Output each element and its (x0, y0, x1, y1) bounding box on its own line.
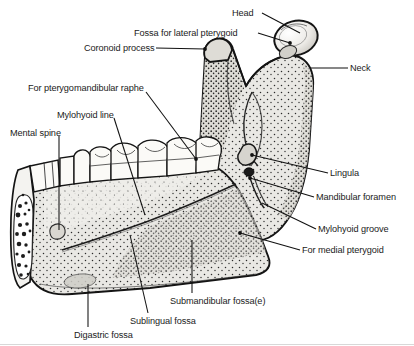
label-for-medial-pterygoid: For medial pterygoid (302, 245, 384, 255)
mandibular-foramen (244, 168, 254, 176)
label-neck: Neck (350, 63, 371, 73)
label-pterygomandibular-raphe: For pterygomandibular raphe (28, 83, 144, 93)
label-digastric-fossa: Digastric fossa (74, 330, 133, 340)
label-lingula: Lingula (330, 168, 359, 178)
label-mental-spine: Mental spine (10, 128, 61, 138)
figure-canvas: HeadFossa for lateral pterygoidCoronoid … (0, 0, 414, 346)
label-head: Head (232, 8, 254, 18)
label-mandibular-foramen: Mandibular foramen (316, 192, 396, 202)
leader-coronoid-process (156, 48, 205, 49)
label-coronoid-process: Coronoid process (84, 43, 154, 53)
label-fossa-lateral-pterygoid: Fossa for lateral pterygoid (134, 28, 238, 38)
label-sublingual-fossa: Sublingual fossa (130, 316, 196, 326)
label-submandibular-fossa: Submandibular fossa(e) (170, 296, 265, 306)
label-mylohyoid-line: Mylohyoid line (57, 110, 114, 120)
coronoid-process (204, 39, 232, 62)
label-mylohyoid-groove: Mylohyoid groove (318, 224, 388, 234)
mental-spine (50, 224, 65, 239)
